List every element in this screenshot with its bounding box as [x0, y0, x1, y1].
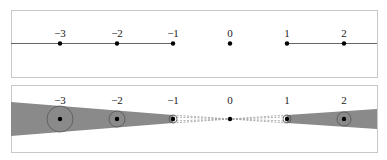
point-label: −3 [54, 27, 66, 39]
point-label: −2 [111, 94, 123, 106]
point-label: −3 [54, 94, 66, 106]
point-marker [115, 117, 119, 121]
point-label: −1 [167, 27, 179, 39]
point-label: 1 [284, 27, 290, 39]
number-line-diagram: −3−2−1012 −3−2−1012 [0, 0, 387, 160]
point-label: 1 [284, 94, 290, 106]
bottom-panel: −3−2−1012 [11, 86, 378, 153]
point-marker [342, 41, 346, 45]
point-marker [342, 117, 346, 121]
point-label: 0 [227, 27, 233, 39]
point-marker [58, 41, 62, 45]
point-marker [285, 41, 289, 45]
point-marker [228, 41, 232, 45]
point-label: 0 [227, 94, 233, 106]
point-label: 2 [341, 27, 347, 39]
point-marker [58, 117, 62, 121]
point-marker [171, 41, 175, 45]
point-marker [228, 117, 232, 121]
point-label: −1 [167, 94, 179, 106]
point-label: 2 [341, 94, 347, 106]
point-marker [171, 117, 175, 121]
point-label: −2 [111, 27, 123, 39]
point-marker [285, 117, 289, 121]
top-panel: −3−2−1012 [11, 11, 378, 78]
point-marker [115, 41, 119, 45]
